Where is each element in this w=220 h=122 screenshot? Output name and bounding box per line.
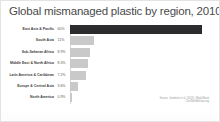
bar-track	[70, 24, 219, 35]
bar-category-label: Middle East & North Africa	[1, 61, 57, 66]
source-note: Source: Jambeck et al. (2015), World Ban…	[160, 97, 209, 104]
bar-europe-central-asia[interactable]	[70, 82, 78, 91]
table-row[interactable]: Latin America & Caribbean 7.2%	[1, 70, 219, 81]
source-note-line-2: OurWorldInData.org	[160, 100, 209, 104]
bar-category-label: Latin America & Caribbean	[1, 73, 57, 78]
slide-canvas: Global mismanaged plastic by region, 201…	[0, 0, 220, 122]
table-row[interactable]: Sub-Saharan Africa 8.9%	[1, 47, 219, 58]
bar-track	[70, 70, 219, 81]
bar-value-label: 0.9%	[57, 95, 70, 100]
bar-track	[70, 35, 219, 46]
page-title: Global mismanaged plastic by region, 201…	[9, 4, 220, 18]
bar-chart: East Asia & Pacific 60% South Asia 11% S…	[1, 24, 219, 104]
bar-south-asia[interactable]	[70, 36, 94, 45]
table-row[interactable]: East Asia & Pacific 60%	[1, 24, 219, 35]
bar-track	[70, 81, 219, 92]
table-row[interactable]: Europe & Central Asia 3.6%	[1, 81, 219, 92]
table-row[interactable]: South Asia 11%	[1, 35, 219, 46]
bar-category-label: North America	[1, 95, 57, 100]
bar-latin-america-caribbean[interactable]	[70, 71, 86, 80]
bar-value-label: 8.9%	[57, 50, 70, 55]
bar-north-america[interactable]	[70, 93, 72, 102]
bar-sub-saharan-africa[interactable]	[70, 48, 90, 57]
bar-value-label: 8.3%	[57, 61, 70, 66]
bar-track	[70, 47, 219, 58]
bar-value-label: 7.2%	[57, 73, 70, 78]
bar-middle-east-north-africa[interactable]	[70, 59, 88, 68]
bar-track	[70, 58, 219, 69]
table-row[interactable]: Middle East & North Africa 8.3%	[1, 58, 219, 69]
bar-category-label: East Asia & Pacific	[1, 27, 57, 32]
bar-category-label: South Asia	[1, 38, 57, 43]
bar-category-label: Sub-Saharan Africa	[1, 50, 57, 55]
bar-category-label: Europe & Central Asia	[1, 84, 57, 89]
slide-content-area: Global mismanaged plastic by region, 201…	[1, 1, 219, 113]
bar-value-label: 11%	[57, 38, 70, 43]
bar-value-label: 3.6%	[57, 84, 70, 89]
bar-value-label: 60%	[57, 27, 70, 32]
bar-east-asia-pacific[interactable]	[70, 25, 202, 34]
